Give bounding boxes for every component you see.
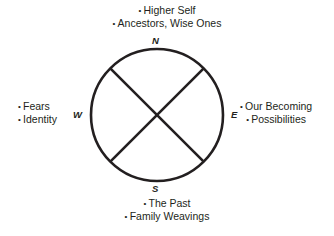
south-item-2: Family Weavings — [0, 210, 334, 223]
north-labels: Higher Self Ancestors, Wise Ones — [0, 4, 334, 30]
east-item-2: Possibilities — [240, 113, 312, 126]
south-labels: The Past Family Weavings — [0, 197, 334, 223]
west-item-2: Identity — [18, 113, 57, 126]
north-item-1: Higher Self — [0, 4, 334, 17]
east-labels: Our Becoming Possibilities — [240, 100, 312, 126]
medicine-wheel-diagram: Higher Self Ancestors, Wise Ones N S W E… — [0, 0, 334, 236]
south-letter: S — [152, 183, 158, 194]
west-letter: W — [73, 109, 82, 120]
north-item-2: Ancestors, Wise Ones — [0, 17, 334, 30]
east-letter: E — [231, 109, 237, 120]
west-labels: Fears Identity — [18, 100, 57, 126]
west-item-1: Fears — [18, 100, 57, 113]
east-item-1: Our Becoming — [240, 100, 312, 113]
south-item-1: The Past — [0, 197, 334, 210]
north-letter: N — [152, 35, 159, 46]
